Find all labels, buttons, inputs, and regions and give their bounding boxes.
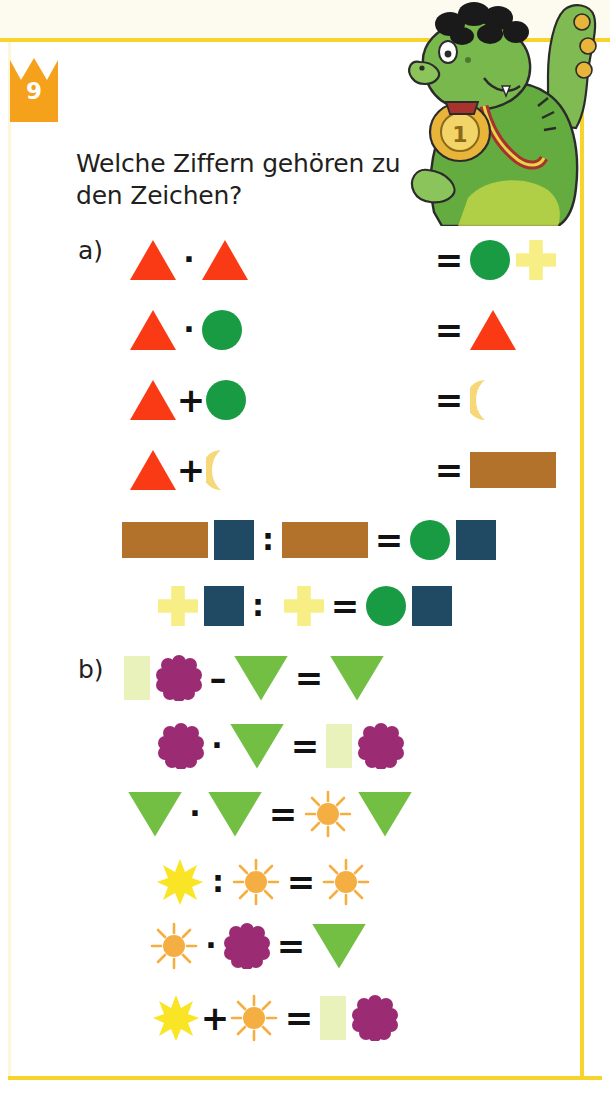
equation-right-side	[470, 240, 556, 280]
frame-rule-left	[8, 42, 11, 1080]
operator-equals: =	[270, 929, 312, 963]
equation-left-side: +	[130, 380, 246, 420]
medal-number: 1	[452, 122, 467, 147]
symbol-star-yellow	[156, 858, 204, 906]
symbol-triangle-up-red	[202, 240, 248, 280]
symbol-triangle-up-red	[130, 450, 176, 490]
equation-right-side	[320, 995, 398, 1041]
operator-equals: =	[284, 729, 326, 763]
equation-row: · =	[150, 918, 366, 974]
symbol-square-blue	[214, 520, 254, 560]
equation-row: · =	[158, 718, 404, 774]
equation-right-side	[322, 858, 370, 906]
equation-left-side: –	[124, 655, 288, 701]
equation-left-side: :	[156, 858, 280, 906]
symbol-circle-green	[202, 310, 242, 350]
flower-icon	[158, 723, 204, 769]
equation-right-side	[470, 380, 504, 420]
operator-equals: =	[280, 865, 322, 899]
flower-icon	[352, 995, 398, 1041]
frame-rule-bottom	[8, 1076, 602, 1080]
operator-equals: =	[278, 1001, 320, 1035]
equation-left-side: ·	[158, 723, 284, 769]
operator-equals: =	[262, 797, 304, 831]
symbol-square-blue	[204, 586, 244, 626]
operator-divide: :	[204, 867, 232, 897]
operator-divide: :	[244, 591, 272, 621]
symbol-triangle-up-red	[130, 380, 176, 420]
operator-minus: –	[202, 661, 234, 695]
symbol-triangle-down-green	[234, 656, 288, 701]
equation-row: +	[130, 372, 246, 428]
flower-icon	[156, 655, 202, 701]
equation-right-side	[366, 586, 452, 626]
symbol-rect-brown	[122, 522, 208, 558]
symbol-flower-purple	[158, 723, 204, 769]
symbol-sun-orange	[322, 858, 370, 906]
operator-divide: :	[254, 525, 282, 555]
equation-right-side	[304, 790, 412, 838]
operator-equals: =	[324, 589, 366, 623]
sun-icon	[230, 994, 278, 1042]
symbol-flower-purple	[358, 723, 404, 769]
operator-equals: =	[288, 661, 330, 695]
equation-row: + =	[152, 990, 398, 1046]
equation-row: · =	[128, 786, 412, 842]
sun-icon	[232, 858, 280, 906]
equation-row-result: =	[428, 232, 556, 288]
part-label-b: b)	[78, 655, 104, 684]
operator-plus: +	[176, 453, 206, 487]
symbol-circle-green	[206, 380, 246, 420]
symbol-square-blue	[456, 520, 496, 560]
equation-row: – =	[124, 650, 384, 706]
mascot-illustration: 1	[398, 2, 608, 226]
sun-icon	[322, 858, 370, 906]
symbol-rect-pale	[320, 996, 346, 1040]
symbol-sun-orange	[230, 994, 278, 1042]
symbol-circle-green	[366, 586, 406, 626]
equation-left-side: ·	[130, 240, 248, 280]
equation-row: ·	[130, 232, 248, 288]
equation-left-side: +	[130, 450, 240, 490]
symbol-rect-brown	[282, 522, 368, 558]
symbol-triangle-up-red	[470, 310, 516, 350]
symbol-square-blue	[412, 586, 452, 626]
symbol-flower-purple	[224, 923, 270, 969]
equation-row-result: =	[428, 372, 504, 428]
symbol-triangle-down-green	[208, 792, 262, 837]
operator-equals: =	[428, 313, 470, 347]
sun-icon	[150, 922, 198, 970]
equation-right-side	[326, 723, 404, 769]
operator-equals: =	[428, 383, 470, 417]
symbol-moon-yellow	[206, 450, 240, 490]
symbol-triangle-down-green	[128, 792, 182, 837]
equation-row: : =	[156, 854, 370, 910]
symbol-cross-yellow	[284, 586, 324, 626]
equation-right-side	[410, 520, 496, 560]
symbol-rect-pale	[326, 724, 352, 768]
operator-multiply: ·	[176, 245, 202, 275]
operator-equals: =	[428, 453, 470, 487]
equation-row-result: =	[428, 302, 516, 358]
operator-multiply: ·	[182, 799, 208, 829]
symbol-rect-pale	[124, 656, 150, 700]
symbol-moon-yellow	[470, 380, 504, 420]
page-title: Welche Ziffern gehören zu den Zeichen?	[76, 148, 406, 212]
equation-row-result: =	[428, 442, 556, 498]
crown-badge: 9	[10, 50, 58, 122]
equation-right-side	[470, 310, 516, 350]
equation-right-side	[330, 656, 384, 701]
symbol-triangle-up-red	[130, 310, 176, 350]
equation-right-side	[470, 452, 556, 488]
worksheet-page: 9	[0, 0, 610, 1100]
operator-plus: +	[176, 383, 206, 417]
equation-left-side: :	[158, 586, 324, 626]
operator-multiply: ·	[204, 731, 230, 761]
equation-row: +	[130, 442, 240, 498]
symbol-sun-orange	[150, 922, 198, 970]
symbol-cross-yellow	[158, 586, 198, 626]
equation-left-side: :	[122, 520, 368, 560]
symbol-triangle-down-green	[330, 656, 384, 701]
equation-left-side: ·	[128, 792, 262, 837]
symbol-sun-orange	[304, 790, 352, 838]
